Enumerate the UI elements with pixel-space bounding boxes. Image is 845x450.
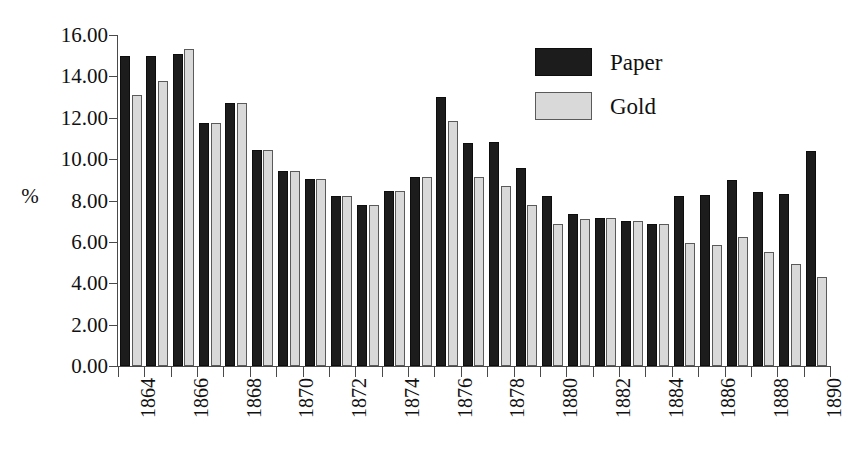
- bar-group: [804, 35, 830, 366]
- bar-paper[interactable]: [753, 192, 763, 366]
- bar-gold[interactable]: [738, 237, 748, 366]
- bar-gold[interactable]: [501, 186, 511, 366]
- y-axis-tick-label: 10.00: [36, 149, 108, 170]
- x-axis-tick-mark: [303, 366, 304, 377]
- bar-group: [197, 35, 223, 366]
- bar-gold[interactable]: [791, 264, 801, 366]
- bar-group: [118, 35, 144, 366]
- x-axis-tick-label: 1878: [507, 378, 527, 418]
- bar-group: [725, 35, 751, 366]
- bar-gold[interactable]: [263, 150, 273, 366]
- bar-group: [434, 35, 460, 366]
- y-axis-tick-mark: [109, 76, 118, 77]
- bar-gold[interactable]: [342, 196, 352, 366]
- x-axis-tick-label: 1880: [560, 378, 580, 418]
- bar-group: [171, 35, 197, 366]
- bar-paper[interactable]: [331, 196, 341, 366]
- bar-paper[interactable]: [384, 191, 394, 366]
- bar-gold[interactable]: [606, 218, 616, 366]
- x-axis-tick-mark: [276, 366, 277, 377]
- bar-gold[interactable]: [290, 171, 300, 366]
- bar-gold[interactable]: [316, 179, 326, 366]
- bar-gold[interactable]: [474, 177, 484, 366]
- x-axis-tick-mark: [144, 366, 145, 377]
- bar-group: [461, 35, 487, 366]
- legend-swatch-paper: [535, 48, 592, 76]
- y-axis-tick-mark: [109, 283, 118, 284]
- bar-gold[interactable]: [685, 243, 695, 366]
- x-axis-tick-mark: [725, 366, 726, 377]
- bar-paper[interactable]: [674, 196, 684, 366]
- bar-paper[interactable]: [700, 195, 710, 366]
- bar-paper[interactable]: [727, 180, 737, 366]
- bar-gold[interactable]: [712, 245, 722, 366]
- y-axis-tick-label: 12.00: [36, 107, 108, 128]
- bar-paper[interactable]: [146, 56, 156, 366]
- bar-gold[interactable]: [395, 191, 405, 366]
- bar-paper[interactable]: [436, 97, 446, 366]
- bar-gold[interactable]: [527, 205, 537, 366]
- x-axis-tick-label: 1886: [718, 378, 738, 418]
- x-axis-tick-label: 1870: [296, 378, 316, 418]
- bar-group: [144, 35, 170, 366]
- bar-paper[interactable]: [199, 123, 209, 366]
- bar-gold[interactable]: [158, 81, 168, 366]
- legend-item-paper[interactable]: Paper: [535, 40, 662, 84]
- legend-label-paper: Paper: [610, 51, 662, 74]
- bar-gold[interactable]: [817, 277, 827, 366]
- bar-paper[interactable]: [647, 224, 657, 366]
- bar-paper[interactable]: [463, 143, 473, 366]
- bar-paper[interactable]: [806, 151, 816, 366]
- bar-gold[interactable]: [132, 95, 142, 366]
- bar-paper[interactable]: [225, 103, 235, 366]
- x-axis-tick-label: 1882: [613, 378, 633, 418]
- bar-paper[interactable]: [542, 196, 552, 366]
- bar-paper[interactable]: [516, 168, 526, 366]
- x-axis-tick-mark: [566, 366, 567, 377]
- y-axis-tick-mark: [109, 35, 118, 36]
- x-axis-tick-label: 1864: [138, 378, 158, 418]
- legend-item-gold[interactable]: Gold: [535, 84, 662, 128]
- x-axis-tick-mark: [645, 366, 646, 377]
- bar-gold[interactable]: [184, 49, 194, 366]
- bar-gold[interactable]: [659, 224, 669, 366]
- y-axis-tick-mark: [109, 366, 118, 367]
- bar-gold[interactable]: [369, 205, 379, 366]
- bar-paper[interactable]: [173, 54, 183, 366]
- y-axis-tick-label: 6.00: [36, 231, 108, 252]
- x-axis-tick-mark: [250, 366, 251, 377]
- bar-paper[interactable]: [595, 218, 605, 366]
- y-axis-tick-label: 14.00: [36, 66, 108, 87]
- bar-gold[interactable]: [764, 252, 774, 366]
- bar-group: [487, 35, 513, 366]
- bar-paper[interactable]: [621, 221, 631, 366]
- x-axis-tick-mark: [830, 366, 831, 377]
- bar-gold[interactable]: [422, 177, 432, 366]
- bar-gold[interactable]: [633, 221, 643, 366]
- bar-gold[interactable]: [448, 121, 458, 366]
- bar-group: [250, 35, 276, 366]
- bar-paper[interactable]: [305, 179, 315, 366]
- bar-gold[interactable]: [553, 224, 563, 366]
- bar-gold[interactable]: [580, 219, 590, 366]
- bar-paper[interactable]: [120, 56, 130, 366]
- bar-group: [672, 35, 698, 366]
- bar-paper[interactable]: [568, 214, 578, 366]
- bar-gold[interactable]: [237, 103, 247, 366]
- y-axis-tick-mark: [109, 325, 118, 326]
- bar-gold[interactable]: [211, 123, 221, 366]
- bar-paper[interactable]: [489, 142, 499, 366]
- x-axis-tick-label: 1868: [244, 378, 264, 418]
- bar-paper[interactable]: [357, 205, 367, 366]
- x-axis-tick-mark: [382, 366, 383, 377]
- bar-group: [329, 35, 355, 366]
- x-axis-tick-mark: [514, 366, 515, 377]
- bar-paper[interactable]: [779, 194, 789, 366]
- plot-area: [118, 35, 830, 366]
- x-axis-tick-mark: [698, 366, 699, 377]
- bar-paper[interactable]: [410, 177, 420, 366]
- y-axis-tick-mark: [109, 159, 118, 160]
- bar-paper[interactable]: [278, 171, 288, 366]
- bar-paper[interactable]: [252, 150, 262, 366]
